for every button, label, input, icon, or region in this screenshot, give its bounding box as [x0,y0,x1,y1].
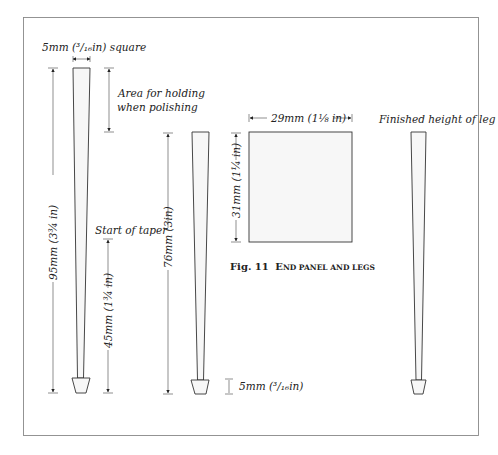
foot-height-label: 5mm (³/₁₆in) [239,380,303,392]
finished-leg-label: Finished height of leg [378,113,496,125]
holding-label-line1: Area for holding [117,87,205,99]
leg-blank-body [73,68,90,378]
panel-width-label: 29mm (1⅛ in) [270,112,346,124]
leg-blank: 5mm (³/₁₆in) square 95mm (3¾ in) Area fo… [42,41,205,393]
end-panel-and-legs-diagram: 5mm (³/₁₆in) square 95mm (3¾ in) Area fo… [0,0,498,455]
square-label: 5mm (³/₁₆in) square [42,41,146,53]
caption-number: Fig. 11 [230,261,269,272]
leg-finished: Finished height of leg [378,113,496,394]
end-panel: 29mm (1⅛ in) 31mm (1¼ in) Fig. 11 END PA… [230,112,375,272]
end-panel-shape [249,132,352,242]
total-height-label: 95mm (3¾ in) [47,205,59,280]
leg-finished-foot [411,380,426,394]
taper-length-label: 45mm (1¾ in) [102,273,114,349]
panel-height-label: 31mm (1¼ in) [230,143,242,218]
holding-label-line2: when polishing [117,101,198,113]
leg-finished-body [411,132,426,380]
caption-rest: ND PANEL AND LEGS [283,263,375,272]
leg-cut-body [192,132,209,380]
leg-blank-foot [72,378,90,393]
leg-height-label: 76mm (3in) [162,206,174,268]
leg-cut-foot [191,380,209,394]
figure-caption: Fig. 11 END PANEL AND LEGS [230,261,375,272]
start-taper-label: Start of taper [95,224,168,236]
